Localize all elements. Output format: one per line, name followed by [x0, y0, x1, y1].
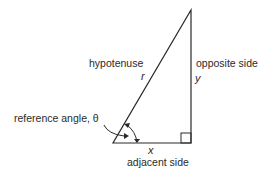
adjacent-side-label: adjacent side	[127, 157, 189, 168]
right-angle-marker	[181, 133, 191, 143]
opposite-side-label: opposite side	[196, 58, 258, 69]
right-triangle-diagram: hypotenuse r opposite side y reference a…	[0, 0, 276, 180]
reference-angle-label: reference angle, θ	[14, 113, 99, 124]
adjacent-side-variable: x	[148, 145, 154, 156]
triangle-shape	[113, 10, 191, 143]
opposite-side-variable: y	[195, 73, 201, 84]
hypotenuse-variable: r	[141, 71, 145, 82]
hypotenuse-label: hypotenuse	[89, 58, 143, 69]
angle-pointer-arrowhead	[124, 133, 129, 139]
triangle-graphic	[0, 0, 276, 180]
